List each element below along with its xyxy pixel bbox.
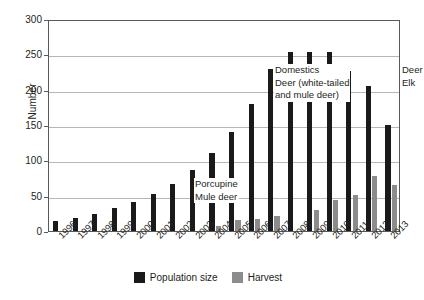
y-tick-250: 250 [2,50,42,60]
chart-legend: Population sizeHarvest [0,272,416,283]
legend-label: Population size [150,272,218,283]
y-tick-200: 200 [2,86,42,96]
plot-area: PorcupineMule deer DomesticsDeer (white-… [48,20,400,232]
bar-harvest-2012 [372,176,377,231]
y-tick-100: 100 [2,156,42,166]
legend-swatch [134,272,145,283]
bar-population-2006 [249,104,254,231]
annotation-line: Deer [402,64,423,77]
legend-swatch [232,272,243,283]
legend-label: Harvest [248,272,282,283]
bar-population-2012 [366,86,371,231]
annotation-porcupine: PorcupineMule deer [194,178,239,203]
annotation-line: Elk [402,77,423,90]
annotation-line: Deer (white-tailed [275,77,349,90]
annotation-deer-elk: DeerElk [401,64,424,89]
y-tick-0: 0 [2,227,42,237]
legend-item: Harvest [232,272,282,283]
bar-population-2013 [385,125,390,231]
annotation-line: Mule deer [195,191,238,204]
annotation-line: Porcupine [195,178,238,191]
annotation-line: Domestics [275,64,349,77]
bar-population-1996 [53,221,58,231]
y-axis-tick-labels: 050100150200250300 [0,0,44,300]
y-tick-50: 50 [2,192,42,202]
legend-item: Population size [134,272,218,283]
bar-population-2007 [268,69,273,231]
y-tick-150: 150 [2,121,42,131]
y-tick-300: 300 [2,15,42,25]
annotation-domestics: DomesticsDeer (white-tailedand mule deer… [274,64,350,102]
annotation-line: and mule deer) [275,89,349,102]
